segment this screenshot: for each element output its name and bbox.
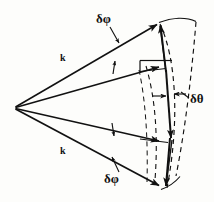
label-delta-phi-bottom: δφ — [104, 172, 119, 185]
spine-mid-to-lower — [166, 70, 171, 138]
arc-left-dashed — [139, 70, 147, 182]
label-k-lower: k — [60, 146, 66, 156]
label-k-upper: k — [60, 53, 66, 63]
ray-lower-inner — [16, 108, 160, 141]
figure-canvas: δφ δφ δθ k k — [0, 0, 214, 202]
tick-lower-mid — [112, 123, 114, 136]
label-delta-theta: δθ — [190, 92, 204, 105]
ray-upper-outer — [16, 25, 158, 108]
label-delta-phi-top: δφ — [96, 12, 111, 25]
arc-bottom-solid — [161, 177, 180, 190]
ray-lower-outer — [16, 109, 160, 186]
arc-top-solid — [159, 18, 196, 22]
leader-delta-phi-top — [110, 27, 119, 43]
spine-top-descend — [160, 26, 166, 72]
tick-upper-mid — [113, 61, 115, 74]
leader-delta-theta — [181, 92, 189, 98]
ray-upper-inner — [16, 67, 160, 108]
